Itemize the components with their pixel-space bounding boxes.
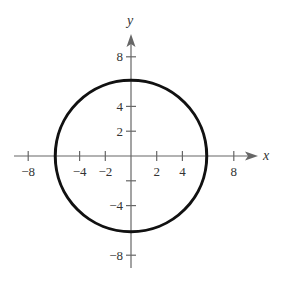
y-tick-label: 4 xyxy=(117,99,124,114)
y-tick-label: 2 xyxy=(117,124,124,139)
y-axis-label: y xyxy=(125,13,134,28)
x-axis-label: x xyxy=(262,148,270,163)
x-tick-label: −8 xyxy=(21,164,35,179)
x-tick-label: 4 xyxy=(179,164,186,179)
y-tick-label: 8 xyxy=(117,49,124,64)
x-tick-label: −4 xyxy=(73,164,87,179)
x-tick-label: 2 xyxy=(153,164,160,179)
x-tick-label: 8 xyxy=(231,164,238,179)
y-tick-label: −4 xyxy=(109,198,123,213)
chart-canvas: x y −8−4−2248842−4−8 xyxy=(0,0,286,299)
y-tick-label: −8 xyxy=(109,248,123,263)
x-tick-label: −2 xyxy=(98,164,112,179)
